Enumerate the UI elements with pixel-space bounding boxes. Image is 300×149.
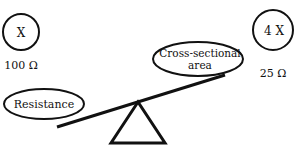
- cross-sectional-label-line2: area: [188, 59, 212, 71]
- resistance-label: Resistance: [14, 98, 74, 111]
- resistance-ellipse: Resistance: [4, 89, 84, 119]
- left-circle: X: [3, 14, 39, 50]
- seesaw-diagram: X 100 Ω 4 X 25 Ω Resistance Cross-sectio…: [0, 0, 300, 149]
- cross-sectional-label-line1: Cross-sectional: [159, 47, 241, 59]
- right-resistance-value: 25 Ω: [260, 67, 287, 80]
- left-resistance-value: 100 Ω: [4, 59, 38, 72]
- right-circle-label: 4 X: [264, 24, 284, 38]
- right-circle: 4 X: [253, 10, 293, 50]
- cross-sectional-area-ellipse: Cross-sectional area: [153, 42, 243, 76]
- left-circle-label: X: [17, 26, 26, 40]
